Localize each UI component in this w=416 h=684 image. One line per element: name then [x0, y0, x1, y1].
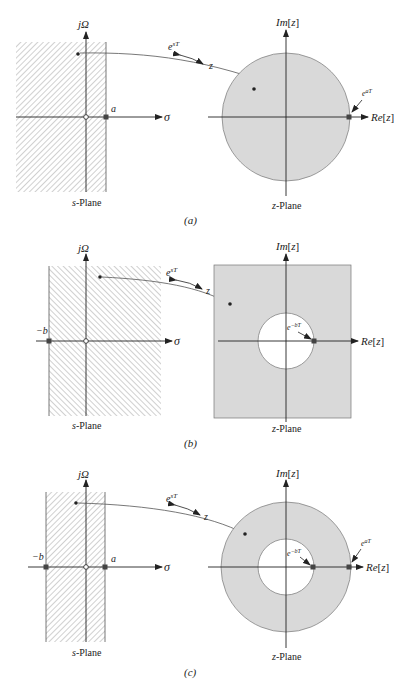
z-plane-title: z-Plane [271, 200, 302, 211]
re-z-label: Re[z] [370, 111, 394, 123]
sigma-label: σ [174, 334, 181, 348]
mapping-label: esT [166, 266, 178, 278]
sigma-label: σ [164, 110, 171, 124]
im-z-label: Im[z] [275, 16, 299, 28]
panel-b: −b σ jΩ s-Plane esT z e−bT Re[z] Im[z] z… [36, 240, 384, 450]
marker-label-a: a [111, 553, 116, 564]
caption-a: (a) [184, 214, 197, 227]
s-plane-title: s-Plane [72, 197, 102, 208]
sigma-label: σ [164, 560, 171, 574]
pointer-arrow-eat [352, 549, 361, 562]
caption-b: (b) [184, 437, 197, 450]
z-plane-c: e−bT eaT Re[z] Im[z] z-Plane [208, 467, 389, 662]
mapping-target: z [208, 60, 213, 71]
origin-marker [84, 565, 89, 570]
mapping-label: esT [166, 492, 178, 504]
cross-marker-minus-b [47, 339, 52, 344]
sample-point-s [76, 52, 80, 56]
mapping-label: esT [168, 40, 180, 52]
eat-label: eaT [361, 538, 372, 548]
jomega-label: jΩ [76, 242, 89, 254]
panel-c: −b a σ jΩ s-Plane esT z e−bT eaT Re[z] [28, 467, 389, 679]
re-z-label: Re[z] [365, 561, 389, 573]
marker-label-minus-b: −b [32, 551, 44, 562]
pointer-arrow-eat [352, 100, 362, 112]
im-z-label: Im[z] [275, 467, 299, 479]
cross-marker-e-minus-bt [312, 339, 317, 344]
double-arrow-icon [175, 505, 200, 515]
marker-label-minus-b: −b [36, 325, 48, 336]
figure-canvas: a σ jΩ s-Plane esT z eaT Re[z] Im[z] z-P… [0, 0, 416, 684]
s-plane-title: s-Plane [72, 420, 102, 431]
s-plane-c: −b a σ jΩ s-Plane [28, 468, 171, 658]
sample-point-z [228, 302, 232, 306]
z-plane-title: z-Plane [271, 651, 302, 662]
sample-point-z [252, 87, 256, 91]
double-arrow-icon [180, 55, 203, 64]
caption-c: (c) [184, 666, 197, 679]
mapping-target: z [205, 285, 210, 296]
origin-marker [84, 115, 89, 120]
z-plane-title: z-Plane [271, 423, 302, 434]
origin-marker [84, 339, 89, 344]
sample-point-s [98, 275, 102, 279]
im-z-label: Im[z] [275, 240, 299, 252]
cross-marker-e-minus-bt [311, 565, 316, 570]
cross-marker-eat [347, 115, 352, 120]
cross-marker-a [104, 115, 109, 120]
z-plane-b: e−bT Re[z] Im[z] z-Plane [214, 240, 384, 434]
eat-label: eaT [362, 88, 373, 98]
jomega-label: jΩ [76, 468, 89, 480]
marker-label-a: a [111, 103, 116, 114]
cross-marker-eat [347, 565, 352, 570]
s-plane-b: −b σ jΩ s-Plane [36, 242, 181, 431]
s-plane-title: s-Plane [72, 647, 102, 658]
panel-a: a σ jΩ s-Plane esT z eaT Re[z] Im[z] z-P… [16, 16, 394, 227]
sample-point-s [74, 501, 78, 505]
cross-marker-a [103, 565, 108, 570]
z-plane-a: eaT Re[z] Im[z] z-Plane [208, 16, 394, 211]
jomega-label: jΩ [76, 18, 89, 30]
double-arrow-icon [176, 280, 202, 289]
cross-marker-minus-b [44, 565, 49, 570]
mapping-target: z [203, 511, 208, 522]
re-z-label: Re[z] [360, 335, 384, 347]
s-plane-a: a σ jΩ s-Plane [16, 18, 171, 208]
sample-point-z [243, 532, 247, 536]
